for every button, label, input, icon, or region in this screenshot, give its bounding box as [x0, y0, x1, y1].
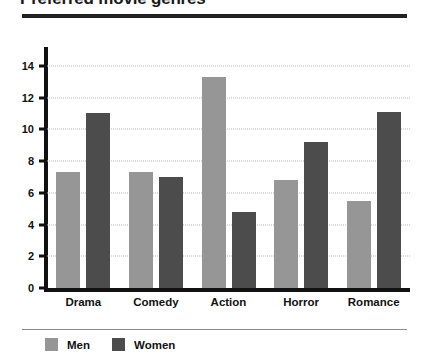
- gridline: [47, 97, 410, 98]
- legend-swatch-women: [112, 338, 125, 351]
- bar-drama-women: [86, 113, 110, 288]
- y-axis-tick: [39, 287, 46, 290]
- gridline: [47, 65, 410, 66]
- x-axis-label-drama: Drama: [47, 296, 120, 308]
- y-axis-tick: [39, 96, 46, 99]
- bar-drama-men: [56, 172, 80, 288]
- bar-action-men: [202, 77, 226, 288]
- y-axis-tick: [39, 255, 46, 258]
- bar-romance-men: [347, 201, 371, 288]
- y-axis-tick: [39, 191, 46, 194]
- y-axis-tick-label: 10: [12, 123, 34, 135]
- title-divider: [22, 14, 407, 18]
- legend-label-men: Men: [67, 339, 90, 351]
- x-axis-line: [44, 288, 410, 292]
- y-axis-tick: [39, 160, 46, 163]
- chart-legend: MenWomen: [45, 338, 175, 351]
- y-axis-tick-label: 4: [12, 219, 34, 231]
- x-axis-label-action: Action: [192, 296, 265, 308]
- y-axis-tick: [39, 64, 46, 67]
- bar-romance-women: [377, 112, 401, 288]
- page-title: Preferred movie genres: [20, 0, 410, 11]
- y-axis-tick-label: 8: [12, 155, 34, 167]
- y-axis-tick-label: 2: [12, 250, 34, 262]
- bar-horror-men: [274, 180, 298, 288]
- legend-label-women: Women: [134, 339, 175, 351]
- legend-item-men[interactable]: Men: [45, 338, 90, 351]
- x-axis-label-comedy: Comedy: [120, 296, 193, 308]
- bar-action-women: [232, 212, 256, 288]
- plot-area: 02468101214: [47, 50, 410, 288]
- y-axis-tick-label: 14: [12, 60, 34, 72]
- legend-divider: [22, 329, 407, 330]
- bar-horror-women: [304, 142, 328, 288]
- legend-item-women[interactable]: Women: [112, 338, 175, 351]
- y-axis-tick-label: 6: [12, 187, 34, 199]
- x-axis-label-romance: Romance: [337, 296, 410, 308]
- bar-comedy-men: [129, 172, 153, 288]
- page-title-clip: Preferred movie genres: [20, 0, 410, 11]
- x-axis-label-horror: Horror: [265, 296, 338, 308]
- y-axis-tick-label: 12: [12, 92, 34, 104]
- y-axis-tick: [39, 128, 46, 131]
- y-axis-tick-label: 0: [12, 282, 34, 294]
- y-axis-tick: [39, 223, 46, 226]
- legend-swatch-men: [45, 338, 58, 351]
- bar-comedy-women: [159, 177, 183, 288]
